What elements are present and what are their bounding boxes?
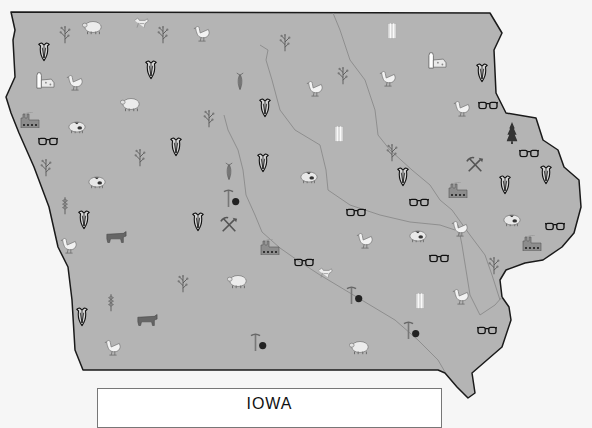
pig-icon bbox=[410, 231, 426, 242]
pig-icon bbox=[504, 215, 520, 226]
silo-icon bbox=[416, 293, 424, 308]
map-title: IOWA bbox=[98, 395, 441, 413]
silo-icon bbox=[388, 23, 396, 38]
pig-icon bbox=[89, 177, 105, 188]
pig-icon bbox=[69, 122, 85, 133]
silo-icon bbox=[335, 126, 343, 141]
state-outline bbox=[6, 12, 581, 398]
pig-icon bbox=[301, 172, 317, 183]
legend-box: IOWA bbox=[97, 388, 442, 428]
